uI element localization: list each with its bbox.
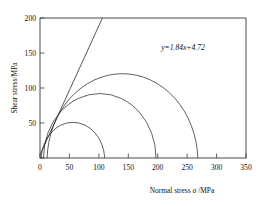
x-tick-label-250: 250 — [181, 163, 193, 172]
y-tick-label-150: 150 — [25, 49, 37, 58]
mohr-circle-3 — [47, 74, 198, 158]
y-tick-label-50: 50 — [28, 119, 36, 128]
x-tick-label-350: 350 — [240, 163, 252, 172]
x-tick-label-200: 200 — [152, 163, 164, 172]
y-tick-label-100: 100 — [25, 84, 37, 93]
x-axis-title: Normal stress σ /MPa — [150, 186, 215, 195]
y-axis-title: Shear stress/MPa — [10, 62, 19, 114]
x-tick-label-50: 50 — [66, 163, 74, 172]
x-tick-label-100: 100 — [93, 163, 105, 172]
x-tick-label-150: 150 — [123, 163, 135, 172]
mohr-circle-chart: 200 150 100 50 0 50 100 150 200 250 300 … — [0, 0, 267, 206]
y-tick-label-200: 200 — [25, 14, 37, 23]
envelope-equation-label: y=1.84x+4.72 — [160, 43, 205, 52]
failure-envelope-line — [40, 18, 102, 155]
mohr-circle-2 — [44, 94, 157, 158]
x-axis-ticks — [40, 154, 246, 159]
mohr-circle-1 — [41, 122, 104, 158]
x-tick-label-300: 300 — [211, 163, 223, 172]
x-tick-label-0: 0 — [38, 163, 42, 172]
chart-canvas: 200 150 100 50 0 50 100 150 200 250 300 … — [0, 0, 267, 206]
plot-frame — [40, 18, 246, 158]
y-axis-ticks — [40, 18, 45, 158]
